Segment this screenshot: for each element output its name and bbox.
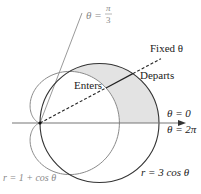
enters-label: Enters — [74, 79, 102, 91]
limit-ray-numerator: π — [106, 3, 111, 13]
theta-zero-label: θ = 0 — [167, 107, 191, 119]
pole-point — [38, 121, 41, 124]
fixed-theta-label: Fixed θ — [150, 42, 183, 54]
theta-two-pi-label: θ = 2π — [167, 123, 197, 135]
limit-ray-denominator: 3 — [106, 15, 111, 25]
limit-ray-label: θ = — [86, 9, 102, 21]
fixed-ray-inner-dashed — [40, 88, 106, 123]
departs-label: Departs — [140, 69, 174, 81]
cardioid-equation-label: r = 1 + cos θ — [3, 172, 56, 183]
circle-equation-label: r = 3 cos θ — [141, 166, 190, 178]
polar-diagram: θ = π 3 Fixed θ Departs Enters θ = 0 θ =… — [0, 0, 201, 194]
